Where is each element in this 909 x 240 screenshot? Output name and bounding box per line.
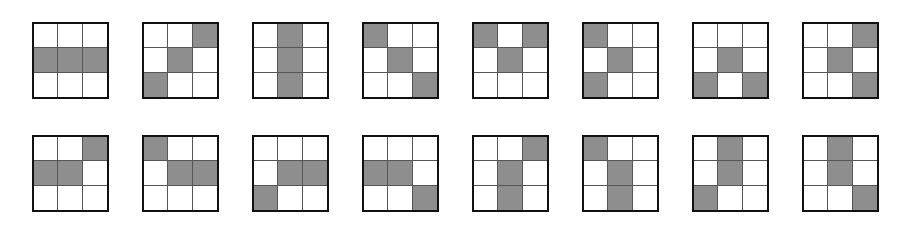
empty-cell <box>584 48 608 72</box>
empty-cell <box>743 161 767 185</box>
empty-cell <box>144 186 168 210</box>
empty-cell <box>853 161 877 185</box>
empty-cell <box>168 137 192 161</box>
empty-cell <box>364 73 388 97</box>
empty-cell <box>254 24 278 48</box>
empty-cell <box>743 48 767 72</box>
filled-cell <box>278 161 302 185</box>
filled-cell <box>58 161 82 185</box>
empty-cell <box>633 161 657 185</box>
filled-cell <box>193 24 217 48</box>
empty-cell <box>633 73 657 97</box>
filled-cell <box>474 24 498 48</box>
pattern-grid <box>472 135 549 212</box>
empty-cell <box>804 48 828 72</box>
empty-cell <box>413 24 437 48</box>
empty-cell <box>413 48 437 72</box>
filled-cell <box>83 137 107 161</box>
filled-cell <box>388 161 412 185</box>
filled-cell <box>498 161 522 185</box>
empty-cell <box>388 186 412 210</box>
empty-cell <box>58 137 82 161</box>
empty-cell <box>144 48 168 72</box>
empty-cell <box>303 48 327 72</box>
empty-cell <box>58 186 82 210</box>
pattern-grid <box>252 22 329 99</box>
empty-cell <box>193 137 217 161</box>
filled-cell <box>694 186 718 210</box>
filled-cell <box>144 137 168 161</box>
filled-cell <box>364 161 388 185</box>
empty-cell <box>34 186 58 210</box>
empty-cell <box>254 137 278 161</box>
filled-cell <box>828 161 852 185</box>
empty-cell <box>34 137 58 161</box>
empty-cell <box>694 137 718 161</box>
filled-cell <box>584 137 608 161</box>
pattern-grid <box>362 135 439 212</box>
empty-cell <box>58 24 82 48</box>
pattern-grid <box>142 22 219 99</box>
filled-cell <box>523 24 547 48</box>
empty-cell <box>303 186 327 210</box>
empty-cell <box>303 24 327 48</box>
pattern-grid <box>692 135 769 212</box>
empty-cell <box>853 137 877 161</box>
pattern-grid <box>142 135 219 212</box>
empty-cell <box>303 137 327 161</box>
empty-cell <box>193 48 217 72</box>
empty-cell <box>633 24 657 48</box>
empty-cell <box>413 161 437 185</box>
empty-cell <box>804 161 828 185</box>
pattern-grid <box>802 135 879 212</box>
empty-cell <box>633 48 657 72</box>
pattern-row-2 <box>32 135 879 212</box>
filled-cell <box>168 161 192 185</box>
empty-cell <box>853 48 877 72</box>
filled-cell <box>743 73 767 97</box>
empty-cell <box>144 161 168 185</box>
empty-cell <box>364 48 388 72</box>
empty-cell <box>34 73 58 97</box>
pattern-grid <box>802 22 879 99</box>
empty-cell <box>193 186 217 210</box>
filled-cell <box>718 48 742 72</box>
empty-cell <box>83 24 107 48</box>
empty-cell <box>804 73 828 97</box>
filled-cell <box>278 24 302 48</box>
filled-cell <box>584 73 608 97</box>
empty-cell <box>83 186 107 210</box>
empty-cell <box>498 24 522 48</box>
pattern-grid <box>362 22 439 99</box>
empty-cell <box>474 186 498 210</box>
empty-cell <box>474 48 498 72</box>
empty-cell <box>193 73 217 97</box>
empty-cell <box>804 186 828 210</box>
filled-cell <box>853 186 877 210</box>
empty-cell <box>584 161 608 185</box>
filled-cell <box>608 186 632 210</box>
filled-cell <box>193 161 217 185</box>
filled-cell <box>498 48 522 72</box>
pattern-grid <box>582 22 659 99</box>
filled-cell <box>303 161 327 185</box>
empty-cell <box>804 24 828 48</box>
empty-cell <box>254 161 278 185</box>
filled-cell <box>853 24 877 48</box>
filled-cell <box>83 48 107 72</box>
filled-cell <box>718 137 742 161</box>
filled-cell <box>254 186 278 210</box>
empty-cell <box>388 24 412 48</box>
empty-cell <box>584 186 608 210</box>
empty-cell <box>254 73 278 97</box>
pattern-grid <box>472 22 549 99</box>
empty-cell <box>303 73 327 97</box>
filled-cell <box>608 161 632 185</box>
empty-cell <box>168 24 192 48</box>
empty-cell <box>83 73 107 97</box>
filled-cell <box>608 48 632 72</box>
empty-cell <box>694 161 718 185</box>
filled-cell <box>828 48 852 72</box>
empty-cell <box>254 48 278 72</box>
filled-cell <box>523 137 547 161</box>
